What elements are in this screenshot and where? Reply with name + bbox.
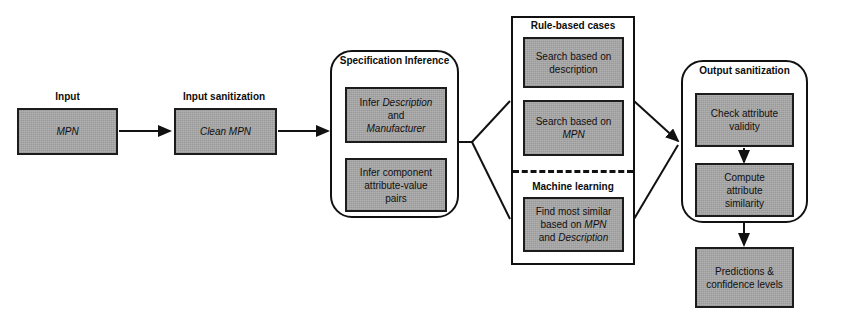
machine-learning-title: Machine learning bbox=[511, 181, 635, 192]
infer-attribute-value-pairs-label: Infer component attribute-value pairs bbox=[360, 166, 432, 205]
specification-inference-title: Specification Inference bbox=[330, 55, 459, 66]
search-based-on-mpn-label: Search based on MPN bbox=[536, 115, 612, 141]
check-attribute-validity-box: Check attribute validity bbox=[695, 93, 794, 147]
input-mpn-label: MPN bbox=[56, 125, 78, 138]
clean-mpn-box: Clean MPN bbox=[174, 108, 277, 155]
infer-description-manufacturer-box: Infer Description and Manufacturer bbox=[345, 87, 447, 143]
predictions-confidence-levels-box: Predictions & confidence levels bbox=[695, 247, 794, 308]
output-sanitization-title: Output sanitization bbox=[681, 65, 808, 76]
input-sanitization-caption: Input sanitization bbox=[170, 91, 278, 102]
predictions-confidence-levels-label: Predictions & confidence levels bbox=[706, 265, 783, 291]
find-most-similar-label: Find most similar based on MPN and Descr… bbox=[536, 205, 612, 244]
input-mpn-box: MPN bbox=[17, 108, 118, 155]
diagram-canvas: Input MPN Input sanitization Clean MPN S… bbox=[0, 0, 841, 326]
matching-group-divider bbox=[513, 170, 633, 173]
find-most-similar-box: Find most similar based on MPN and Descr… bbox=[523, 197, 624, 252]
clean-mpn-label: Clean MPN bbox=[200, 125, 251, 138]
connector-rule-based-to-output bbox=[634, 101, 678, 141]
infer-attribute-value-pairs-box: Infer component attribute-value pairs bbox=[345, 158, 447, 212]
search-based-on-mpn-box: Search based on MPN bbox=[523, 100, 624, 156]
compute-attribute-similarity-label: Compute attribute similarity bbox=[724, 171, 765, 210]
input-caption: Input bbox=[17, 91, 118, 102]
rule-based-cases-title: Rule-based cases bbox=[511, 20, 635, 31]
connector-machine-learning-to-output bbox=[634, 145, 678, 219]
compute-attribute-similarity-box: Compute attribute similarity bbox=[695, 163, 794, 217]
connector-fork-to-machine-learning bbox=[472, 142, 510, 219]
connector-fork-to-rule-based bbox=[472, 101, 510, 142]
check-attribute-validity-label: Check attribute validity bbox=[711, 107, 778, 133]
search-based-on-description-box: Search based on description bbox=[523, 37, 624, 88]
search-based-on-description-label: Search based on description bbox=[536, 50, 612, 76]
infer-description-manufacturer-label: Infer Description and Manufacturer bbox=[360, 96, 433, 135]
